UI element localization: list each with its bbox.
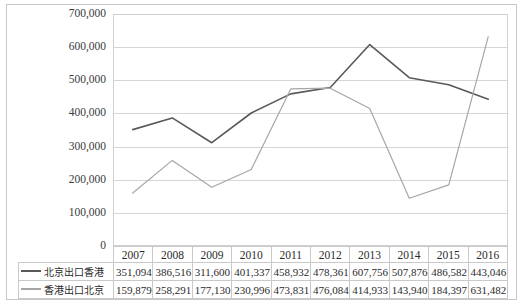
table-header-year: 2013 xyxy=(350,247,389,263)
legend-line-swatch-icon xyxy=(21,288,41,290)
legend-cell: 香港出口北京 xyxy=(19,281,114,299)
table-header-year: 2014 xyxy=(389,247,428,263)
table-value-cell: 607,756 xyxy=(350,263,389,281)
table-value-cell: 230,996 xyxy=(232,281,271,299)
table-header-year: 2015 xyxy=(429,247,468,263)
table-value-cell: 473,831 xyxy=(271,281,310,299)
table-value-cell: 401,337 xyxy=(232,263,271,281)
y-axis-tick-label: 500,000 xyxy=(6,74,106,86)
legend-cell: 北京出口香港 xyxy=(19,263,114,281)
table-value-cell: 476,084 xyxy=(310,281,349,299)
table-value-cell: 143,940 xyxy=(389,281,428,299)
y-axis-tick-label: 100,000 xyxy=(6,207,106,219)
y-axis-tick-label: 200,000 xyxy=(6,174,106,186)
table-value-cell: 351,094 xyxy=(114,263,153,281)
table-value-cell: 486,582 xyxy=(429,263,468,281)
table-header-year: 2007 xyxy=(114,247,153,263)
y-axis-tick-label: 300,000 xyxy=(6,141,106,153)
table-value-cell: 443,046 xyxy=(468,263,507,281)
table-value-cell: 177,130 xyxy=(192,281,231,299)
table-value-cell: 311,600 xyxy=(192,263,231,281)
data-table: 2007200820092010201120122013201420152016… xyxy=(18,246,508,299)
y-axis-tick-label: 700,000 xyxy=(6,8,106,20)
table-body: 北京出口香港351,094386,516311,600401,337458,93… xyxy=(19,263,508,299)
series-line xyxy=(133,45,489,143)
data-table-wrapper: 2007200820092010201120122013201420152016… xyxy=(18,246,508,299)
table-header-year: 2012 xyxy=(310,247,349,263)
table-value-cell: 414,933 xyxy=(350,281,389,299)
table-value-cell: 631,482 xyxy=(468,281,507,299)
legend-line-swatch-icon xyxy=(21,270,41,272)
table-value-cell: 458,932 xyxy=(271,263,310,281)
table-value-cell: 184,397 xyxy=(429,281,468,299)
chart-area: 700,000600,000500,000400,000300,000200,0… xyxy=(0,0,523,248)
table-value-cell: 386,516 xyxy=(153,263,192,281)
table-header-year: 2011 xyxy=(271,247,310,263)
table-header-year: 2009 xyxy=(192,247,231,263)
series-lines xyxy=(113,14,508,246)
y-axis-tick-label: 400,000 xyxy=(6,107,106,119)
table-value-cell: 159,879 xyxy=(114,281,153,299)
table-header-year: 2016 xyxy=(468,247,507,263)
table-corner-cell xyxy=(19,247,114,263)
table-value-cell: 507,876 xyxy=(389,263,428,281)
table-value-cell: 258,291 xyxy=(153,281,192,299)
legend-series-label: 北京出口香港 xyxy=(44,267,104,278)
table-header-year: 2010 xyxy=(232,247,271,263)
series-line xyxy=(133,37,489,199)
table-row: 香港出口北京159,879258,291177,130230,996473,83… xyxy=(19,281,508,299)
table-value-cell: 478,361 xyxy=(310,263,349,281)
legend-series-label: 香港出口北京 xyxy=(44,285,104,296)
table-header-year: 2008 xyxy=(153,247,192,263)
y-axis-tick-label: 600,000 xyxy=(6,41,106,53)
table-header-row: 2007200820092010201120122013201420152016 xyxy=(19,247,508,263)
chart-screenshot: 700,000600,000500,000400,000300,000200,0… xyxy=(0,0,523,306)
table-row: 北京出口香港351,094386,516311,600401,337458,93… xyxy=(19,263,508,281)
